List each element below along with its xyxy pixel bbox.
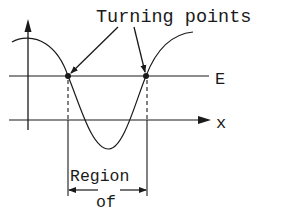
energy-label: E — [215, 70, 225, 89]
x-axis-label: x — [216, 114, 226, 133]
potential-curve — [12, 32, 193, 149]
region-label-of: of — [96, 193, 116, 212]
pointer-arrow-right — [134, 27, 145, 72]
y-axis-arrowhead — [25, 19, 32, 32]
x-axis-arrowhead — [198, 116, 211, 124]
turning-points-label: Turning points — [96, 7, 251, 28]
region-label: Region — [70, 167, 129, 186]
turning-point-left — [65, 73, 71, 79]
turning-point-right — [143, 73, 149, 79]
diagram-svg: Turning points E x Region of — [0, 0, 283, 214]
potential-well-diagram: Turning points E x Region of — [0, 0, 283, 214]
pointer-arrow-left — [71, 27, 118, 73]
